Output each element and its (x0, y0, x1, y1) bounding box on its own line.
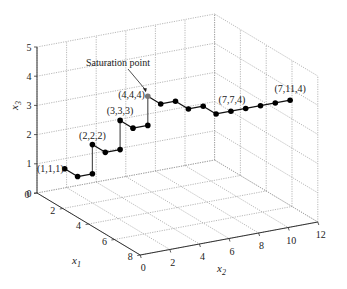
data-point (145, 93, 151, 99)
grid-line (126, 177, 229, 239)
x3-tick-label: 1 (27, 158, 32, 169)
data-point (158, 101, 164, 107)
point-label: (2,2,2) (79, 130, 106, 142)
data-point (130, 125, 136, 131)
tick (199, 244, 200, 247)
x2-tick-label: 4 (200, 251, 205, 262)
x2-tick-label: 6 (230, 246, 235, 257)
x3-tick-label: 2 (27, 129, 32, 140)
grid-line (67, 188, 170, 250)
annotation: Saturation point (86, 57, 150, 92)
tick (111, 240, 114, 241)
x3-tick-label: 4 (27, 71, 32, 82)
grid-line (185, 166, 288, 228)
grid-line (63, 176, 241, 209)
tick (259, 233, 260, 236)
data-point (117, 118, 123, 124)
point-label: (4,4,4) (118, 89, 145, 101)
data-point (75, 174, 81, 180)
data-point (117, 147, 123, 153)
point-label: (3,3,3) (107, 105, 134, 117)
x2-tick-label: 10 (286, 235, 296, 246)
tick (137, 255, 140, 256)
x1-tick-label: 6 (102, 236, 107, 247)
tick (288, 228, 289, 231)
x2-axis-label: x2 (216, 262, 226, 277)
x1-axis-label: x1 (71, 254, 81, 269)
grid-line (96, 182, 199, 244)
tick (170, 250, 171, 253)
tick (229, 239, 230, 242)
x3-tick-label: 3 (27, 100, 32, 111)
x2-tick-label: 0 (141, 262, 146, 273)
tick (86, 224, 89, 225)
data-point (287, 97, 293, 103)
grid-line (114, 207, 292, 240)
data-point (103, 150, 109, 156)
tick (60, 209, 63, 210)
data-point (145, 123, 151, 129)
grid-line (155, 171, 258, 233)
point-label: (1,1,1) (37, 163, 64, 175)
data-point (258, 103, 264, 109)
grid-line (215, 14, 318, 76)
data-point (200, 103, 206, 109)
x2-tick-label: 8 (259, 240, 264, 251)
saturation-point-label: Saturation point (86, 57, 150, 68)
data-point (186, 106, 192, 112)
x2-tick-label: 2 (170, 257, 175, 268)
tick (318, 222, 319, 225)
tick-labels: 02468024681012012345 (25, 42, 326, 274)
3d-line-chart: 02468024681012012345 (1,1,1)(2,2,2)(3,3,… (0, 0, 347, 289)
x1-tick-label: 4 (76, 220, 81, 231)
point-label: (7,7,4) (219, 94, 246, 106)
data-point (213, 111, 219, 117)
data-point (228, 108, 234, 114)
point-label: (7,11,4) (274, 83, 305, 95)
x3-tick-label: 0 (27, 188, 32, 199)
data-point (90, 171, 96, 177)
point-labels: (1,1,1)(2,2,2)(3,3,3)(4,4,4)(7,7,4)(7,11… (37, 83, 306, 175)
data-point (173, 98, 179, 104)
x1-tick-label: 2 (50, 205, 55, 216)
x1-tick-label: 8 (128, 251, 133, 262)
data-point (273, 100, 279, 106)
x3-axis-label: x3 (8, 101, 23, 111)
x2-tick-label: 12 (316, 229, 326, 240)
x3-tick-label: 5 (27, 42, 32, 53)
tick (140, 255, 141, 258)
data-point (90, 142, 96, 148)
data-point (243, 106, 249, 112)
